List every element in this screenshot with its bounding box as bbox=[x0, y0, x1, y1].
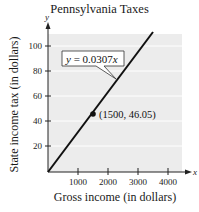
y-tick-label: 60 bbox=[33, 91, 43, 101]
y-tick-label: 40 bbox=[33, 116, 43, 126]
x-tick-label: 2000 bbox=[99, 177, 118, 187]
equation-x: x bbox=[112, 53, 118, 65]
x-axis-letter: x bbox=[192, 167, 197, 177]
chart-plot: y x 20 40 60 80 100 1000 2000 3000 4000 … bbox=[0, 0, 199, 212]
y-tick-label: 20 bbox=[33, 141, 43, 151]
x-tick-label: 4000 bbox=[159, 177, 178, 187]
svg-text:y = 0.0307x: y = 0.0307x bbox=[65, 53, 118, 65]
data-point bbox=[90, 111, 96, 117]
x-tick-label: 1000 bbox=[69, 177, 88, 187]
point-label: (1500, 46.05) bbox=[99, 109, 156, 121]
y-tick-label: 100 bbox=[29, 41, 43, 51]
x-tick-label: 3000 bbox=[129, 177, 148, 187]
y-tick-label: 80 bbox=[33, 66, 43, 76]
x-axis-arrow-icon bbox=[185, 170, 192, 175]
y-axis-letter: y bbox=[44, 12, 49, 22]
equation-body: = 0.0307 bbox=[71, 53, 113, 65]
y-axis-arrow-icon bbox=[46, 22, 51, 29]
